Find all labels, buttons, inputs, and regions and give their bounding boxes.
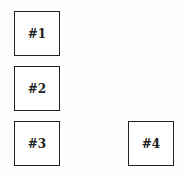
box-1-label: #1	[28, 27, 46, 41]
box-2-label: #2	[28, 82, 46, 96]
box-1: #1	[14, 11, 60, 56]
box-4: #4	[128, 121, 174, 166]
box-2: #2	[14, 66, 60, 111]
box-4-label: #4	[142, 137, 160, 151]
box-3-label: #3	[28, 137, 46, 151]
box-3: #3	[14, 121, 60, 166]
